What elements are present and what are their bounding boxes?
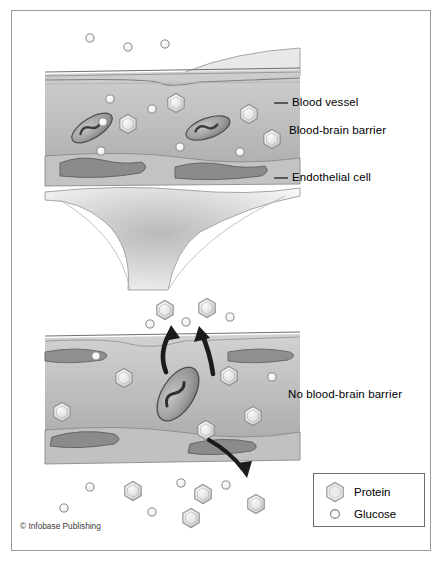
protein-molecule-outside <box>125 482 141 501</box>
glucose-molecule <box>176 143 184 151</box>
escape-arrow-down-head <box>236 461 252 478</box>
glucose-molecule-outside <box>60 504 68 512</box>
glucose-molecule-outside <box>148 508 156 516</box>
protein-molecule-escaped <box>157 301 173 320</box>
glucose-molecule <box>99 118 107 126</box>
legend-item-glucose: Glucose <box>324 504 396 524</box>
glucose-molecule-outside <box>124 43 132 51</box>
label-blood-brain-barrier: Blood-brain barrier <box>289 124 386 136</box>
protein-molecule-outside <box>248 495 264 514</box>
glucose-molecule-outside <box>177 479 185 487</box>
glucose-icon <box>324 504 346 524</box>
protein-molecule <box>168 94 184 113</box>
glucose-molecule <box>148 105 156 113</box>
protein-molecule <box>221 367 237 386</box>
astrocyte-endfoot <box>45 187 300 290</box>
glucose-molecule-outside <box>161 40 169 48</box>
protein-molecule <box>120 115 136 134</box>
publisher-credit: © Infobase Publishing <box>20 521 101 531</box>
glucose-molecule <box>106 95 114 103</box>
panel-intact-barrier <box>45 34 300 290</box>
glucose-molecule-outside <box>222 481 230 489</box>
label-endothelial-cell: Endothelial cell <box>292 171 371 183</box>
protein-molecule <box>245 407 261 426</box>
protein-molecule-outside <box>183 509 199 528</box>
panel-no-barrier <box>45 299 300 528</box>
label-no-blood-brain-barrier: No blood-brain barrier <box>288 388 402 400</box>
protein-molecule <box>241 105 257 124</box>
glucose-molecule-escaped <box>226 313 234 321</box>
figure-root: Blood vessel Blood-brain barrier Endothe… <box>0 0 443 562</box>
protein-molecule <box>264 130 280 149</box>
glucose-molecule-escaped <box>146 320 154 328</box>
legend-label-protein: Protein <box>354 486 390 498</box>
legend-item-protein: Protein <box>324 480 390 504</box>
endothelial-nucleus-6 <box>228 349 294 363</box>
legend-box: Protein Glucose <box>313 473 425 527</box>
label-blood-vessel: Blood vessel <box>292 96 358 108</box>
glucose-molecule-outside <box>86 483 94 491</box>
protein-molecule-escaped <box>199 299 215 318</box>
protein-molecule <box>116 369 132 388</box>
legend-label-glucose: Glucose <box>354 508 396 520</box>
protein-molecule-outside <box>195 485 211 504</box>
protein-molecule <box>54 403 70 422</box>
glucose-molecule-outside <box>86 34 94 42</box>
glucose-molecule <box>97 147 105 155</box>
glucose-molecule <box>92 352 100 360</box>
glucose-molecule <box>236 148 244 156</box>
protein-molecule <box>198 421 214 440</box>
protein-icon <box>324 480 346 504</box>
glucose-molecule <box>268 373 276 381</box>
glucose-molecule-escaped <box>182 318 190 326</box>
